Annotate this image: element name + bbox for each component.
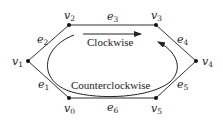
counterclockwise-label: Counterclockwise <box>71 79 151 91</box>
vertex-label-v2: v2 <box>64 9 75 23</box>
vertex-label-v3: v3 <box>151 9 162 23</box>
edge-label-e2: e2 <box>37 33 49 47</box>
vertex-v3 <box>154 23 158 27</box>
edge-label-e4: e4 <box>177 33 189 47</box>
edge-e1 <box>28 61 69 98</box>
vertex-label-v5: v5 <box>151 102 162 116</box>
edge-label-e5: e5 <box>177 78 189 92</box>
edge-e2 <box>28 25 69 61</box>
edge-e4 <box>156 25 196 61</box>
edge-label-e3: e3 <box>107 10 119 24</box>
vertex-label-v0: v0 <box>64 102 75 116</box>
vertex-v1 <box>26 59 30 63</box>
clockwise-arrow: Clockwise <box>83 34 141 48</box>
vertex-label-v1: v1 <box>12 55 23 69</box>
edge-e5 <box>156 61 196 98</box>
vertex-label-v4: v4 <box>202 55 213 69</box>
edge-label-e6: e6 <box>107 101 119 115</box>
cycle-graph-diagram: Clockwise Counterclockwise v0 v1 v2 v3 v… <box>0 0 223 123</box>
vertex-v0 <box>67 96 71 100</box>
edge-labels: e1 e2 e3 e4 e5 e6 <box>37 10 189 115</box>
vertex-v5 <box>154 96 158 100</box>
edge-label-e1: e1 <box>38 78 49 92</box>
vertex-v2 <box>67 23 71 27</box>
vertex-v4 <box>194 59 198 63</box>
clockwise-label: Clockwise <box>87 36 134 48</box>
